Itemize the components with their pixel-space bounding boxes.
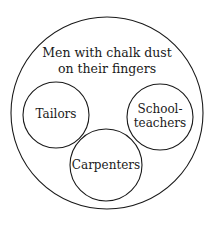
- set-carpenters: Carpenters: [70, 129, 142, 201]
- outer-label-line-1: Men with chalk dust: [42, 45, 172, 60]
- schoolteachers-label-line-1: School-: [137, 102, 182, 116]
- set-schoolteachers: School- teachers: [127, 84, 193, 150]
- set-tailors: Tailors: [23, 82, 89, 148]
- carpenters-label: Carpenters: [72, 158, 140, 172]
- tailors-label: Tailors: [35, 107, 76, 121]
- outer-label-line-2: on their fingers: [58, 61, 156, 76]
- euler-diagram: Men with chalk dust on their fingers Tai…: [0, 0, 215, 225]
- schoolteachers-label-line-2: teachers: [134, 116, 187, 130]
